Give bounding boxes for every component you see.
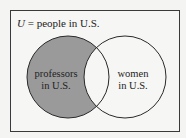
professors-label-line1: professors — [34, 68, 77, 79]
women-label-line1: women — [118, 68, 150, 79]
women-label-line2: in U.S. — [118, 80, 147, 91]
universe-label: U = people in U.S. — [17, 17, 100, 29]
professors-label-line2: in U.S. — [41, 80, 70, 91]
venn-diagram: U = people in U.S. professors in U.S. wo… — [0, 0, 186, 138]
